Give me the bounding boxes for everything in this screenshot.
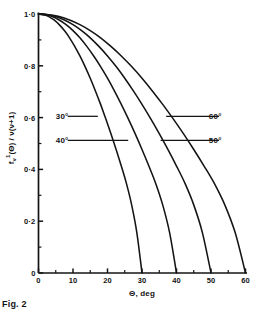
y-axis-title: fν1(Θ) / ν(ν+1) [5, 111, 17, 163]
y-tick-label: 1·0 [24, 10, 35, 19]
curve-label-40deg: 40° [56, 136, 69, 145]
x-tick-label: 0 [36, 276, 40, 285]
x-tick-label: 10 [69, 276, 78, 285]
curve-label-60deg: 60° [209, 112, 222, 121]
y-tick-label: 0·8 [24, 61, 35, 70]
curve-label-50deg: 50° [209, 136, 222, 145]
y-tick-label: 0·4 [24, 165, 35, 174]
x-tick-label: 40 [172, 276, 181, 285]
curve-30deg [39, 14, 143, 273]
x-axis-title: Θ, deg [129, 289, 155, 298]
leader-line-layer [68, 116, 219, 140]
x-tick-label: 30 [138, 276, 147, 285]
figure-caption: Fig. 2 [2, 299, 27, 309]
figure-container: 00·20·40·60·81·0 0102030405060 30°60°40°… [0, 0, 266, 312]
x-tick-label: 60 [241, 276, 250, 285]
y-axis-title-denominator: ν(ν+1) [7, 111, 16, 135]
plot-canvas [0, 0, 266, 312]
y-tick-label: 0·2 [24, 217, 35, 226]
y-axis-title-argument: (Θ) [7, 142, 16, 154]
curve-label-30deg: 30° [56, 112, 69, 121]
x-tick-label: 20 [103, 276, 112, 285]
y-axis-title-superscript: 1 [5, 154, 11, 157]
y-tick-label: 0·6 [24, 113, 35, 122]
y-axis-title-subscript: ν [11, 158, 17, 161]
y-tick-label: 0 [31, 269, 35, 278]
x-tick-label: 50 [207, 276, 216, 285]
y-axis-title-divider: / [7, 135, 16, 142]
